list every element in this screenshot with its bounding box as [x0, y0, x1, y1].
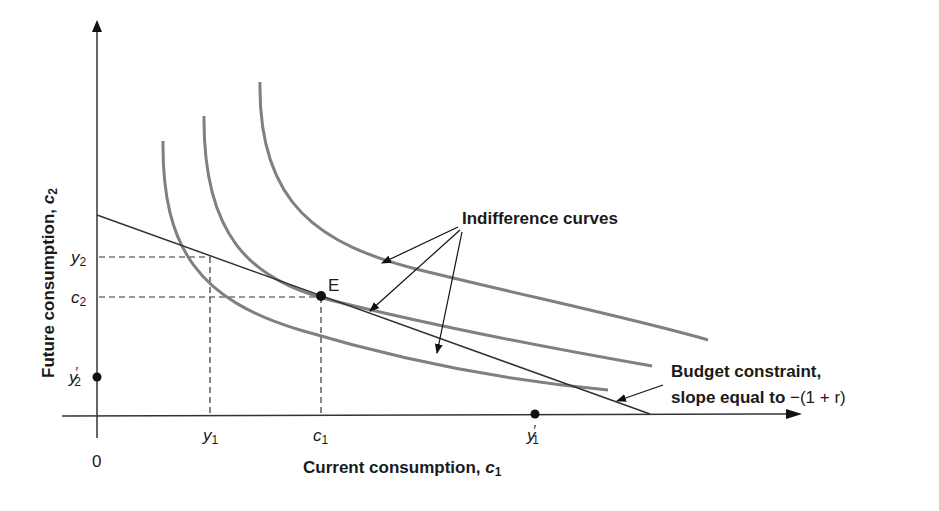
x-axis-title: Current consumption, c1: [303, 458, 502, 479]
x-tick-c1: c1: [313, 426, 329, 447]
x-axis: [62, 414, 790, 416]
y-axis-title: Future consumption, c2: [39, 188, 60, 378]
intertemporal-choice-diagram: E Indifference curves Budget constraint,…: [0, 0, 939, 511]
y-tick-y2-prime: y′2: [68, 364, 81, 389]
indifference-arrows: [370, 227, 462, 353]
guide-lines: [99, 257, 321, 414]
indifference-curves-label: Indifference curves: [462, 209, 618, 228]
budget-slope-value: −(1 + r): [790, 388, 846, 407]
x-tick-y1-prime: y′1: [526, 422, 539, 447]
y1-prime-point: [531, 410, 540, 419]
equilibrium-point: [316, 291, 326, 301]
indifference-curve-1: [163, 141, 608, 390]
equilibrium-label: E: [328, 276, 339, 295]
budget-slope-label: slope equal to −(1 + r): [671, 388, 846, 407]
budget-slope-prefix: slope equal to: [671, 388, 790, 407]
x-tick-y1: y1: [202, 426, 219, 447]
budget-constraint-label: Budget constraint,: [671, 362, 821, 381]
y-tick-c2: c2: [71, 288, 87, 309]
y2-prime-point: [93, 373, 102, 382]
budget-constraint-line: [97, 215, 650, 414]
y-axis-arrow-icon: [92, 20, 102, 32]
y-tick-y2: y2: [70, 248, 87, 269]
indifference-curves: [163, 82, 708, 390]
x-axis-arrow-icon: [786, 409, 802, 419]
budget-arrow: [617, 385, 663, 401]
origin-label: 0: [92, 452, 101, 471]
